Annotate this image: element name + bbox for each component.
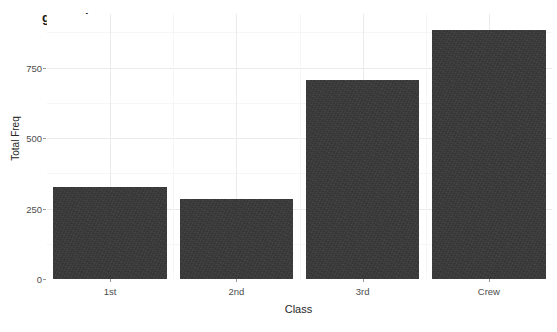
x-tick-label-2nd: 2nd: [228, 286, 244, 297]
x-tick-mark: [489, 279, 490, 282]
y-tick-label: 0: [2, 274, 42, 285]
bar-2nd: [180, 199, 294, 279]
y-axis-ticks: 0250500750: [0, 14, 42, 279]
gridline-vertical-minor: [426, 14, 427, 279]
y-tick-mark: [43, 138, 46, 139]
bar-crew: [432, 30, 546, 279]
y-tick-mark: [43, 279, 46, 280]
x-tick-label-1st: 1st: [104, 286, 117, 297]
y-tick-label: 750: [2, 62, 42, 73]
gridline-vertical-minor: [173, 14, 174, 279]
x-tick-mark: [363, 279, 364, 282]
x-axis-label: Class: [0, 303, 557, 315]
x-tick-mark: [236, 279, 237, 282]
y-tick-mark: [43, 209, 46, 210]
x-tick-mark: [110, 279, 111, 282]
y-tick-label: 500: [2, 133, 42, 144]
plot-panel: [47, 14, 552, 279]
bar-3rd: [306, 80, 420, 279]
x-tick-label-3rd: 3rd: [356, 286, 370, 297]
chart-canvas: geom_bar Total Freq Class 0250500750 1st…: [0, 0, 557, 332]
x-tick-label-crew: Crew: [478, 286, 500, 297]
y-tick-mark: [43, 68, 46, 69]
bar-1st: [53, 187, 167, 279]
gridline-vertical-minor: [300, 14, 301, 279]
y-tick-label: 250: [2, 203, 42, 214]
